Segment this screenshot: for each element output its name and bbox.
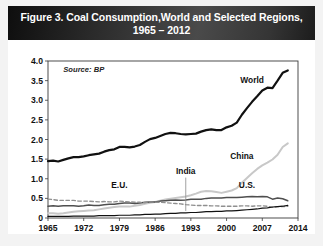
x-tick-label: 1979 — [110, 223, 129, 233]
x-tick-label: 2007 — [253, 223, 272, 233]
figure-title-bar: Figure 3. Coal Consumption,World and Sel… — [8, 6, 315, 40]
y-tick-label: 4.0 — [31, 56, 43, 66]
line-chart: 00.51.01.52.02.53.03.54.0 19651972197919… — [8, 40, 315, 234]
y-tick-label: 3.0 — [31, 95, 43, 105]
series-label-eu: E.U. — [111, 180, 127, 190]
y-tick-label: 1.0 — [31, 174, 43, 184]
figure-container: Figure 3. Coal Consumption,World and Sel… — [0, 0, 323, 246]
plot-area: 00.51.01.52.02.53.03.54.0 19651972197919… — [8, 40, 315, 234]
x-tick-label: 1972 — [74, 223, 93, 233]
y-tick-label: 1.5 — [31, 154, 43, 164]
y-tick-label: 3.5 — [31, 76, 43, 86]
x-tick-label: 1993 — [181, 223, 200, 233]
x-tick-label: 2014 — [288, 223, 307, 233]
x-tick-label: 1986 — [146, 223, 165, 233]
series-label-world: World — [240, 75, 264, 85]
y-tick-label: 0.5 — [31, 193, 43, 203]
series-label-us: U.S. — [239, 180, 255, 190]
y-tick-label: 2.0 — [31, 135, 43, 145]
y-tick-label: 2.5 — [31, 115, 43, 125]
source-label: Source: BP — [63, 65, 105, 74]
series-label-india: India — [176, 166, 196, 176]
x-tick-label: 2000 — [217, 223, 236, 233]
figure-title-line-2: 1965 – 2012 — [8, 24, 315, 37]
chart-background — [8, 40, 315, 234]
figure-title-line-1: Figure 3. Coal Consumption,World and Sel… — [8, 11, 315, 24]
y-tick-label: 0 — [38, 213, 43, 223]
figure-inner: Figure 3. Coal Consumption,World and Sel… — [8, 6, 315, 234]
series-label-china: China — [230, 151, 254, 161]
x-tick-label: 1965 — [38, 223, 57, 233]
